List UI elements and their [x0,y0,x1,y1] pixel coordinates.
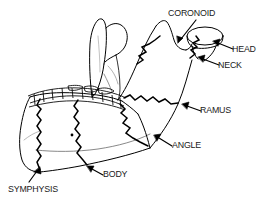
label-coronoid: CORONOID [168,8,215,18]
label-symphysis: SYMPHYSIS [8,184,58,194]
label-neck: NECK [218,60,242,70]
label-ramus: RAMUS [200,105,231,115]
mandible-diagram [0,0,261,201]
label-head: HEAD [232,44,256,54]
label-body: BODY [103,169,127,179]
label-angle: ANGLE [172,140,201,150]
